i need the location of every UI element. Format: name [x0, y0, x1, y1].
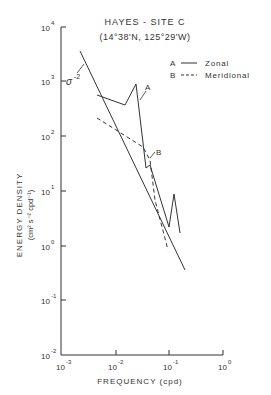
series-a-zonal	[97, 84, 180, 233]
x-axis-label: FREQUENCY (cpd)	[97, 377, 183, 386]
svg-text:10: 10	[41, 352, 50, 361]
y-axis-label: ENERGY DENSITY	[15, 173, 24, 258]
svg-text:-1: -1	[173, 359, 179, 365]
svg-text:10: 10	[56, 363, 65, 372]
energy-spectrum-chart: HAYES - SITE C (14°38'N, 125°29'W) A Zon…	[0, 0, 271, 395]
axes	[61, 27, 223, 355]
svg-text:4: 4	[51, 20, 55, 26]
series-b-meridional	[97, 118, 168, 250]
svg-text:-2: -2	[118, 359, 124, 365]
y-axis-units: (cm² s⁻² cpd⁻¹)	[26, 189, 35, 240]
legend-a-label: Zonal	[205, 59, 229, 68]
svg-text:2: 2	[51, 129, 55, 135]
sigma-reference-line	[80, 51, 185, 270]
legend: A Zonal B Meridional	[170, 59, 250, 80]
y-tick-labels: 104 103 102 101 100 10-1 10-2	[41, 20, 57, 361]
svg-text:-2: -2	[51, 348, 57, 354]
svg-text:-3: -3	[66, 359, 72, 365]
svg-text:10: 10	[41, 24, 50, 33]
svg-text:-1: -1	[51, 293, 57, 299]
x-tick-labels: 10-3 10-2 10-1 100	[56, 359, 232, 372]
svg-text:10: 10	[41, 243, 50, 252]
svg-text:-2: -2	[74, 73, 80, 80]
svg-text:10: 10	[41, 297, 50, 306]
legend-b-key: B	[170, 71, 175, 80]
chart-subtitle: (14°38'N, 125°29'W)	[99, 32, 190, 42]
svg-text:10: 10	[41, 133, 50, 142]
svg-text:10: 10	[108, 363, 117, 372]
svg-text:10: 10	[163, 363, 172, 372]
legend-b-label: Meridional	[205, 71, 250, 80]
svg-text:10: 10	[41, 78, 50, 87]
chart-title: HAYES - SITE C	[105, 17, 186, 27]
svg-text:10: 10	[41, 188, 50, 197]
svg-text:10: 10	[218, 363, 227, 372]
annotation-b: B	[156, 148, 161, 157]
svg-text:1: 1	[51, 184, 55, 190]
sigma-annotation: σ	[66, 76, 73, 87]
svg-text:0: 0	[51, 239, 55, 245]
legend-a-key: A	[170, 59, 176, 68]
svg-text:3: 3	[51, 74, 55, 80]
annotation-a: A	[145, 83, 151, 92]
svg-text:0: 0	[228, 359, 232, 365]
